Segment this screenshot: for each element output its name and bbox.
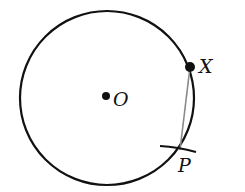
label-p: P bbox=[177, 154, 192, 176]
point-x bbox=[185, 62, 195, 72]
geometry-diagram: O X P bbox=[0, 0, 245, 192]
label-o: O bbox=[113, 88, 129, 110]
point-o bbox=[102, 92, 110, 100]
label-x: X bbox=[197, 55, 214, 77]
